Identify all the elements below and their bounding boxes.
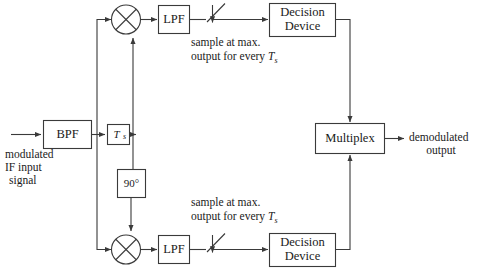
block-ts-sublabel: s [123, 132, 126, 141]
sampler-top-line2: output for every Ts [191, 50, 278, 65]
block-bpf-label: BPF [56, 127, 78, 141]
output-label-line2: output [426, 144, 456, 157]
block-decision-bottom-line2: Device [285, 249, 321, 263]
sampler-bottom-line2-pre: output for every [191, 210, 268, 223]
wire-tap-to-bottom-mixer [97, 135, 111, 250]
input-label-line1: modulated [5, 148, 54, 160]
sampler-bottom-line2: output for every Ts [191, 210, 278, 225]
wire-tap-to-top-mixer [97, 20, 111, 135]
wire-bottom-decision-to-multiplex [335, 155, 350, 250]
input-label-line2: IF input [5, 161, 43, 174]
output-label-line1: demodulated [409, 131, 469, 143]
wire-top-decision-to-multiplex [335, 20, 350, 123]
sampler-top-line2-pre: output for every [191, 50, 268, 63]
sampler-bottom-line1: sample at max. [191, 196, 260, 209]
block-multiplex-label: Multiplex [325, 131, 375, 145]
block-decision-top-line1: Decision [280, 5, 325, 19]
block-decision-top-line2: Device [285, 19, 321, 33]
sampler-top-line2-sub: s [274, 55, 277, 64]
sampler-bottom-line2-sub: s [274, 215, 277, 224]
block-phase-shift-label: 90° [124, 177, 139, 189]
input-label-line3: signal [9, 174, 36, 187]
sampler-top-line1: sample at max. [191, 36, 260, 49]
block-lpf-bottom-label: LPF [163, 242, 185, 256]
diagram-canvas: BPF T s 90° LPF LPF Decision Device Deci… [0, 0, 481, 273]
block-ts-label: T [113, 128, 120, 140]
block-decision-bottom-line1: Decision [280, 235, 325, 249]
block-lpf-top-label: LPF [163, 12, 185, 26]
wire-ts-to-top-mixer [130, 38, 133, 135]
block-diagram: BPF T s 90° LPF LPF Decision Device Deci… [0, 0, 481, 273]
